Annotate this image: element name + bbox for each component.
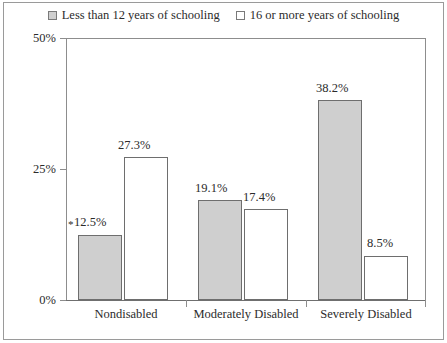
x-group-separator-2 xyxy=(306,300,307,307)
y-tick-label-0: 0% xyxy=(39,294,56,307)
bar-label-nondisabled-less-than-12: 12.5% xyxy=(74,216,106,229)
bar-severely-disabled-less-than-12 xyxy=(318,100,362,300)
x-group-separator-3 xyxy=(425,300,426,307)
x-axis-line xyxy=(66,300,426,301)
chart-figure: Less than 12 years of schooling 16 or mo… xyxy=(0,0,447,343)
y-tick-label-50: 50% xyxy=(33,32,56,45)
y-tick-label-25: 25% xyxy=(33,163,56,176)
legend-item-16-or-more: 16 or more years of schooling xyxy=(236,9,400,22)
bar-nondisabled-16-or-more xyxy=(124,157,168,300)
bar-moderately-disabled-16-or-more xyxy=(244,209,288,300)
legend-item-less-than-12: Less than 12 years of schooling xyxy=(48,9,220,22)
x-tick-label-moderately-disabled: Moderately Disabled xyxy=(186,308,306,321)
legend-item-label: 16 or more years of schooling xyxy=(250,9,400,22)
bar-label-severely-disabled-less-than-12: 38.2% xyxy=(316,82,348,95)
y-tick-0 xyxy=(60,300,66,301)
bar-label-moderately-disabled-16-or-more: 17.4% xyxy=(243,191,275,204)
x-tick-label-severely-disabled: Severely Disabled xyxy=(306,308,426,321)
legend-item-label: Less than 12 years of schooling xyxy=(62,9,220,22)
plot-area xyxy=(66,38,426,300)
bar-label-nondisabled-16-or-more: 27.3% xyxy=(118,139,150,152)
bar-label-moderately-disabled-less-than-12: 19.1% xyxy=(195,182,227,195)
x-tick-label-nondisabled: Nondisabled xyxy=(66,308,186,321)
open-square-icon xyxy=(236,11,245,20)
chart-legend: Less than 12 years of schooling 16 or mo… xyxy=(0,9,447,22)
filled-square-icon xyxy=(48,11,57,20)
x-group-separator-1 xyxy=(186,300,187,307)
bar-label-severely-disabled-16-or-more: 8.5% xyxy=(367,237,393,250)
bar-nondisabled-less-than-12 xyxy=(78,235,122,301)
significance-asterisk: * xyxy=(68,219,74,230)
bar-moderately-disabled-less-than-12 xyxy=(198,200,242,300)
bar-severely-disabled-16-or-more xyxy=(364,256,408,301)
